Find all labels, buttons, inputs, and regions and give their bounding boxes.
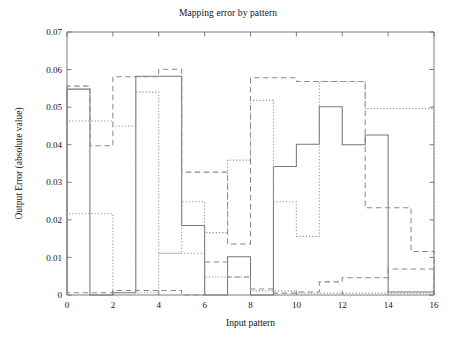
y-tick-label: 0.03 (46, 177, 62, 187)
x-tick-label: 16 (430, 300, 440, 310)
data-series-layer (67, 69, 434, 295)
x-tick-label: 4 (157, 300, 162, 310)
y-axis-tick-labels: 00.010.020.030.040.050.060.07 (46, 27, 62, 300)
chart-figure: Mapping error by pattern 00.010.020.030.… (0, 0, 456, 340)
plot-canvas: 00.010.020.030.040.050.060.07 0246810121… (0, 0, 456, 340)
x-tick-label: 12 (338, 300, 347, 310)
x-tick-label: 14 (384, 300, 394, 310)
y-tick-label: 0.07 (46, 27, 62, 37)
x-tick-label: 6 (202, 300, 207, 310)
y-axis-title: Output Error (absolute value) (14, 107, 25, 219)
x-axis-title: Input pattern (226, 318, 275, 328)
y-tick-label: 0 (58, 290, 63, 300)
x-axis-tick-labels: 0246810121416 (65, 300, 439, 310)
x-tick-label: 2 (111, 300, 116, 310)
y-tick-label: 0.01 (46, 253, 62, 263)
x-tick-label: 0 (65, 300, 70, 310)
y-tick-label: 0.04 (46, 140, 62, 150)
y-tick-label: 0.02 (46, 215, 62, 225)
y-tick-label: 0.06 (46, 65, 62, 75)
x-tick-label: 8 (248, 300, 253, 310)
y-tick-label: 0.05 (46, 102, 62, 112)
x-tick-label: 10 (292, 300, 302, 310)
